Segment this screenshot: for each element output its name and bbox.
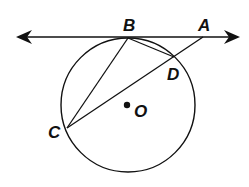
segment-bc	[67, 38, 128, 128]
label-d: D	[167, 65, 179, 84]
diagram-canvas: B A D C O	[0, 0, 249, 187]
label-c: C	[48, 123, 61, 142]
geometry-diagram: B A D C O	[0, 0, 249, 187]
center-point	[124, 102, 130, 108]
label-a: A	[197, 16, 210, 35]
label-o: O	[134, 102, 147, 121]
label-b: B	[123, 16, 135, 35]
segment-bd	[128, 38, 174, 57]
